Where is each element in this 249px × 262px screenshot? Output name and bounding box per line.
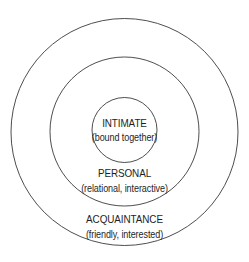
personal-title: PERSONAL bbox=[17, 167, 231, 179]
intimate-title: INTIMATE bbox=[17, 117, 231, 129]
inner-circle-intimate bbox=[92, 98, 157, 163]
intimate-subtitle: (bound together) bbox=[17, 131, 231, 143]
acquaintance-subtitle: (friendly, interested) bbox=[17, 228, 231, 240]
acquaintance-title: ACQUAINTANCE bbox=[17, 213, 231, 225]
personal-subtitle: (relational, interactive) bbox=[17, 182, 231, 194]
